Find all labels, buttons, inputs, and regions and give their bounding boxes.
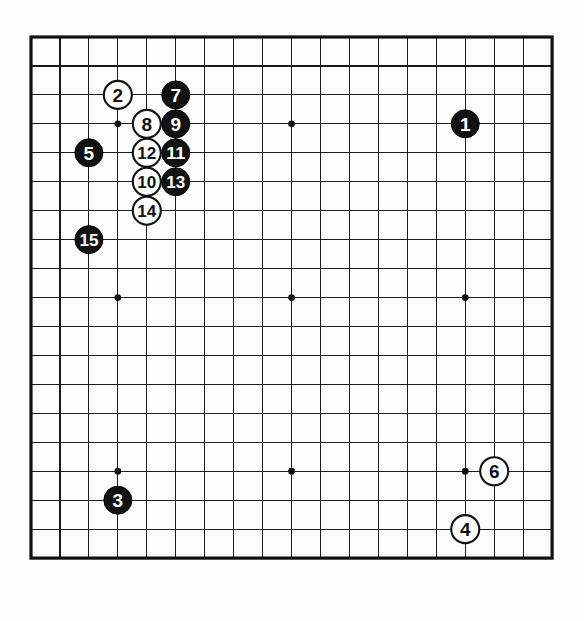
black-stone[interactable] (104, 486, 132, 514)
star-point (462, 294, 469, 301)
go-stone-move-13[interactable]: 13 (162, 168, 190, 196)
go-stone-move-8[interactable]: 8 (133, 110, 161, 138)
go-stone-move-7[interactable]: 7 (162, 81, 190, 109)
black-stone[interactable] (162, 110, 190, 138)
go-stone-move-3[interactable]: 3 (104, 486, 132, 514)
go-stone-move-4[interactable]: 4 (451, 515, 479, 543)
white-stone[interactable] (133, 197, 161, 225)
go-stone-move-5[interactable]: 5 (75, 139, 103, 167)
go-stone-move-15[interactable]: 15 (75, 226, 103, 254)
star-point (288, 294, 295, 301)
star-point (114, 294, 121, 301)
black-stone[interactable] (451, 110, 479, 138)
white-stone[interactable] (104, 81, 132, 109)
white-stone[interactable] (133, 110, 161, 138)
white-stone[interactable] (451, 515, 479, 543)
black-stone[interactable] (162, 139, 190, 167)
black-stone[interactable] (75, 226, 103, 254)
go-stone-move-2[interactable]: 2 (104, 81, 132, 109)
go-stone-move-6[interactable]: 6 (480, 457, 508, 485)
go-stone-move-9[interactable]: 9 (162, 110, 190, 138)
black-stone[interactable] (75, 139, 103, 167)
go-stone-move-12[interactable]: 12 (133, 139, 161, 167)
white-stone[interactable] (133, 139, 161, 167)
go-stone-move-14[interactable]: 14 (133, 197, 161, 225)
white-stone[interactable] (480, 457, 508, 485)
star-point (114, 468, 121, 475)
star-point (288, 120, 295, 127)
go-stone-move-11[interactable]: 11 (162, 139, 190, 167)
go-board-canvas[interactable]: 123456789101112131415 (0, 0, 584, 621)
go-board-diagram: 123456789101112131415 (0, 0, 584, 621)
go-stone-move-1[interactable]: 1 (451, 110, 479, 138)
star-point (114, 120, 121, 127)
black-stone[interactable] (162, 168, 190, 196)
go-stone-move-10[interactable]: 10 (133, 168, 161, 196)
black-stone[interactable] (162, 81, 190, 109)
white-stone[interactable] (133, 168, 161, 196)
star-point (288, 468, 295, 475)
star-point (462, 468, 469, 475)
